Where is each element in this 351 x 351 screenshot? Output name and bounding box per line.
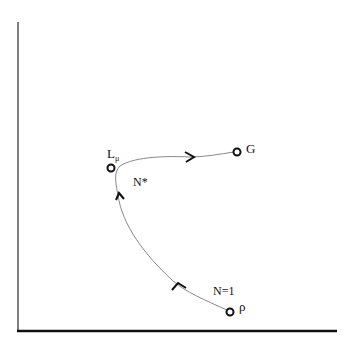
point-g-marker xyxy=(234,149,241,156)
label-n-star: N* xyxy=(133,175,148,189)
label-g: G xyxy=(246,141,255,156)
label-l-mu-subscript: μ xyxy=(115,154,119,163)
diagram-canvas: ρ Lμ G N* N=1 xyxy=(0,0,351,351)
label-l-mu: Lμ xyxy=(107,146,119,163)
label-n-one: N=1 xyxy=(213,284,234,298)
point-l-mu-marker xyxy=(108,165,115,172)
label-rho: ρ xyxy=(239,299,246,314)
point-rho-marker xyxy=(227,309,234,316)
label-l-mu-main: L xyxy=(107,146,115,161)
arrow-icon-middle xyxy=(116,193,124,200)
